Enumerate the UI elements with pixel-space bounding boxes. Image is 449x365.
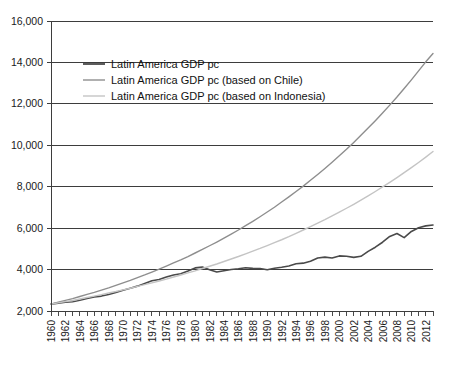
x-tick-label: 1992 — [277, 320, 288, 343]
chart-legend: Latin America GDP pcLatin America GDP pc… — [83, 58, 325, 102]
x-axis-ticks — [51, 311, 433, 316]
x-tick-label: 2002 — [349, 320, 360, 343]
x-axis-labels: 1960196219641966196819701972197419761978… — [46, 320, 432, 343]
y-tick-label: 10,000 — [11, 139, 43, 151]
chart-canvas: 2,0004,0006,0008,00010,00012,00014,00016… — [0, 0, 449, 365]
y-tick-label: 14,000 — [11, 56, 43, 68]
x-tick-label: 2004 — [363, 320, 374, 343]
x-tick-label: 1974 — [147, 320, 158, 343]
x-tick-label: 1998 — [320, 320, 331, 343]
x-tick-label: 1986 — [233, 320, 244, 343]
y-axis-ticks — [47, 21, 51, 311]
x-tick-label: 2010 — [406, 320, 417, 343]
x-tick-label: 1984 — [219, 320, 230, 343]
x-tick-label: 1966 — [89, 320, 100, 343]
legend-label-1: Latin America GDP pc (based on Chile) — [111, 74, 303, 86]
x-tick-label: 1976 — [161, 320, 172, 343]
x-tick-label: 1972 — [132, 320, 143, 343]
gridlines — [51, 21, 433, 270]
gdp-line-chart: 2,0004,0006,0008,00010,00012,00014,00016… — [0, 0, 449, 365]
x-tick-label: 1990 — [262, 320, 273, 343]
x-tick-label: 2006 — [378, 320, 389, 343]
y-tick-label: 8,000 — [17, 180, 43, 192]
y-tick-label: 16,000 — [11, 15, 43, 27]
x-tick-label: 1968 — [104, 320, 115, 343]
y-tick-label: 4,000 — [17, 263, 43, 275]
x-tick-label: 2000 — [334, 320, 345, 343]
x-tick-label: 2008 — [392, 320, 403, 343]
x-tick-label: 1988 — [248, 320, 259, 343]
legend-label-0: Latin America GDP pc — [111, 58, 220, 70]
x-tick-label: 1960 — [46, 320, 57, 343]
legend-label-2: Latin America GDP pc (based on Indonesia… — [111, 90, 325, 102]
y-tick-label: 12,000 — [11, 97, 43, 109]
series-line-0 — [51, 225, 433, 304]
x-tick-label: 1994 — [291, 320, 302, 343]
y-axis-labels: 2,0004,0006,0008,00010,00012,00014,00016… — [11, 15, 43, 317]
y-tick-label: 6,000 — [17, 222, 43, 234]
y-tick-label: 2,000 — [17, 305, 43, 317]
x-tick-label: 1996 — [305, 320, 316, 343]
x-tick-label: 1982 — [205, 320, 216, 343]
x-tick-label: 2012 — [421, 320, 432, 343]
x-tick-label: 1964 — [75, 320, 86, 343]
x-tick-label: 1970 — [118, 320, 129, 343]
x-tick-label: 1962 — [60, 320, 71, 343]
x-tick-label: 1978 — [176, 320, 187, 343]
x-tick-label: 1980 — [190, 320, 201, 343]
